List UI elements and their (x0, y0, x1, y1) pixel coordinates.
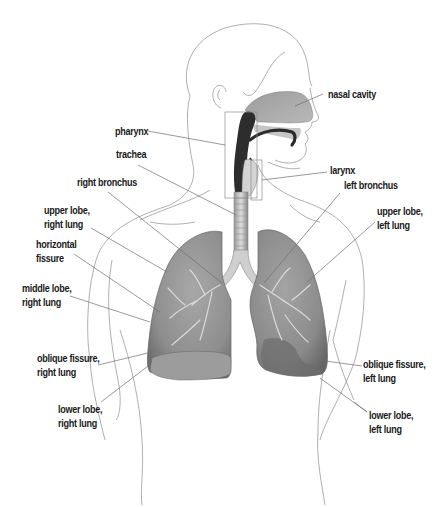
label-lower-lobe-left-lung: lower lobe, left lung (369, 409, 413, 436)
leader-horizontal-fissure (74, 254, 160, 312)
label-oblique-fissure-right-lung: oblique fissure, right lung (37, 352, 100, 379)
label-right-bronchus: right bronchus (77, 176, 137, 190)
leader-lower-lobe-left-2 (354, 402, 367, 412)
label-oblique-fissure-left-lung: oblique fissure, left lung (363, 358, 426, 385)
respiratory-diagram: nasal cavity pharynx trachea larynx righ… (0, 0, 443, 507)
leader-trachea (138, 165, 236, 215)
label-larynx: larynx (330, 164, 355, 178)
torso-left (120, 330, 143, 505)
label-upper-lobe-left-lung: upper lobe, left lung (377, 205, 423, 232)
label-upper-lobe-right-lung: upper lobe, right lung (44, 204, 90, 231)
head-outline (186, 24, 312, 96)
leader-pharynx (148, 131, 225, 145)
label-nasal-cavity: nasal cavity (328, 88, 376, 102)
leader-larynx (262, 172, 327, 180)
body-outline (88, 24, 365, 505)
label-left-bronchus: left bronchus (344, 179, 398, 193)
arm-right (333, 280, 354, 400)
leader-upper-lobe-left (307, 222, 375, 282)
leader-lower-lobe-right (101, 366, 148, 402)
leader-upper-lobe-right (91, 228, 167, 272)
ear (213, 85, 226, 108)
collar-left (150, 222, 195, 224)
leader-middle-lobe-right (70, 296, 150, 322)
label-trachea: trachea (116, 148, 146, 162)
collar-right (290, 205, 320, 222)
leader-oblique-fissure-right (98, 352, 152, 365)
label-pharynx: pharynx (115, 125, 148, 139)
label-middle-lobe-right-lung: middle lobe, right lung (22, 282, 72, 309)
shoulder-left (140, 190, 210, 220)
larynx-shape (242, 160, 258, 197)
right-lower-lobe (150, 351, 231, 380)
label-horizontal-fissure: horizontal fissure (36, 238, 77, 265)
hairline (243, 52, 285, 95)
label-lower-lobe-right-lung: lower lobe, right lung (58, 403, 102, 430)
